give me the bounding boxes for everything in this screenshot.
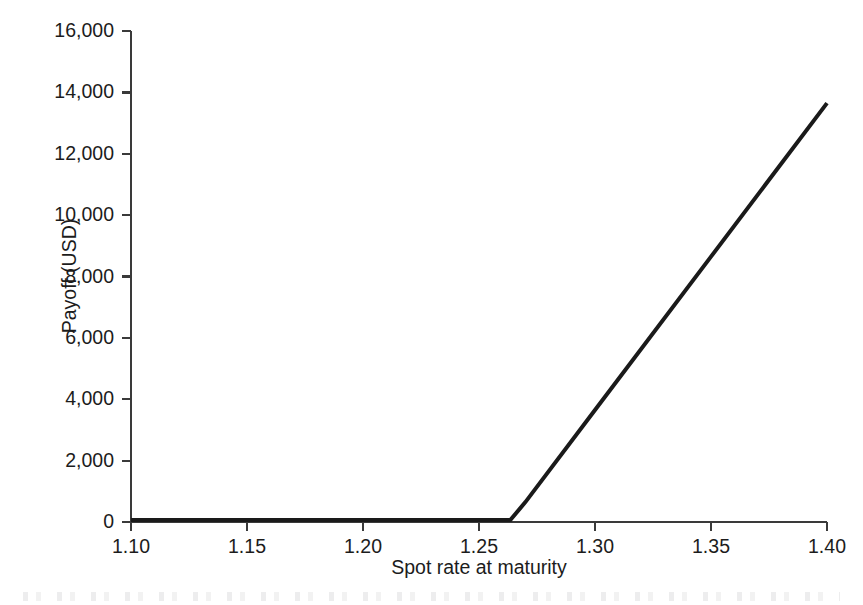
xtick-label-1-35: 1.35 [692,537,730,557]
ytick-label-12000: 12,000 [18,144,114,164]
xtick-label-1-20: 1.20 [344,537,382,557]
xtick-label-1-25: 1.25 [460,537,498,557]
y-axis-ticks [122,31,131,522]
x-axis-title: Spot rate at maturity [391,558,567,578]
xtick-label-1-15: 1.15 [228,537,266,557]
xtick-label-1-40: 1.40 [808,537,846,557]
x-axis-ticks [131,522,827,531]
ytick-label-16000: 16,000 [18,21,114,41]
xtick-label-1-10: 1.10 [112,537,150,557]
xtick-label-1-30: 1.30 [576,537,614,557]
ytick-label-0: 0 [18,512,114,532]
y-axis-title: Payoff (USD) [60,219,80,334]
ytick-label-2000: 2,000 [18,451,114,471]
ytick-label-14000: 14,000 [18,83,114,103]
chart-plot-area [0,0,863,605]
payoff-chart-figure: 16,000 14,000 12,000 10,000 8,000 6,000 … [0,0,863,605]
payoff-series-line [131,103,827,520]
ytick-label-4000: 4,000 [18,389,114,409]
